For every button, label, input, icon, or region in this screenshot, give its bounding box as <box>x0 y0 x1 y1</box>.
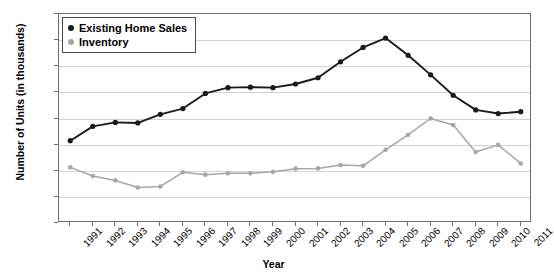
x-axis-tick-mark <box>137 222 138 226</box>
x-axis-tick-mark <box>385 222 386 226</box>
legend-label: Inventory <box>79 37 129 48</box>
series-line <box>70 119 520 188</box>
x-axis-tick-mark <box>317 222 318 226</box>
legend-item-existing-home-sales: Existing Home Sales <box>68 21 187 35</box>
x-axis-tick-mark <box>340 222 341 226</box>
data-point-marker <box>225 85 230 90</box>
data-point-marker <box>203 91 208 96</box>
x-axis-tick-label: 1996 <box>194 226 217 249</box>
x-axis-tick-label: 1992 <box>104 226 127 249</box>
data-point-marker <box>113 120 118 125</box>
data-point-marker <box>428 116 433 121</box>
x-axis-tick-label: 2000 <box>284 226 307 249</box>
data-point-marker <box>293 81 298 86</box>
data-point-marker <box>136 185 141 190</box>
data-point-marker <box>406 132 411 137</box>
chart-legend: Existing Home Sales Inventory <box>62 17 196 53</box>
data-point-marker <box>271 170 276 175</box>
legend-marker-icon <box>68 39 74 45</box>
data-point-marker <box>428 72 433 77</box>
x-axis-tick-label: 2003 <box>352 226 375 249</box>
x-axis-tick-label: 2010 <box>510 226 533 249</box>
data-point-marker <box>451 123 456 128</box>
x-axis-tick-mark <box>114 222 115 226</box>
x-axis-tick-mark <box>159 222 160 226</box>
data-point-marker <box>406 53 411 58</box>
x-axis-title: Year <box>0 258 547 270</box>
x-axis-tick-mark <box>249 222 250 226</box>
data-point-marker <box>338 163 343 168</box>
data-point-marker <box>518 161 523 166</box>
x-axis-tick-mark <box>497 222 498 226</box>
x-axis-tick-label: 1998 <box>239 226 262 249</box>
x-axis-tick-label: 2001 <box>307 226 330 249</box>
x-axis-tick-label: 2011 <box>532 226 554 248</box>
data-point-marker <box>315 75 320 80</box>
x-axis-tick-mark <box>69 222 70 226</box>
x-axis-tick-mark <box>407 222 408 226</box>
x-axis-tick-mark <box>272 222 273 226</box>
data-point-marker <box>338 59 343 64</box>
x-axis-tick-label: 1999 <box>262 226 285 249</box>
data-point-marker <box>181 170 186 175</box>
x-axis-tick-label: 2009 <box>487 226 510 249</box>
data-point-marker <box>518 109 523 114</box>
legend-label: Existing Home Sales <box>79 23 187 34</box>
x-axis-tick-label: 1995 <box>172 226 195 249</box>
x-axis-tick-label: 1991 <box>82 226 105 249</box>
data-point-marker <box>360 45 365 50</box>
data-point-marker <box>158 184 163 189</box>
data-point-marker <box>68 165 73 170</box>
x-axis-tick-mark <box>204 222 205 226</box>
data-point-marker <box>203 172 208 177</box>
x-axis-tick-label: 1997 <box>217 226 240 249</box>
data-point-marker <box>180 106 185 111</box>
data-point-marker <box>113 178 118 183</box>
data-point-marker <box>473 150 478 155</box>
x-axis-tick-label: 1993 <box>127 226 150 249</box>
y-axis-tick-mark <box>54 222 58 223</box>
data-point-marker <box>473 107 478 112</box>
x-axis-tick-mark <box>430 222 431 226</box>
x-axis-tick-label: 2006 <box>420 226 443 249</box>
x-axis-tick-label: 2008 <box>465 226 488 249</box>
x-axis-tick-label: 2004 <box>375 226 398 249</box>
legend-item-inventory: Inventory <box>68 35 187 49</box>
x-axis-tick-mark <box>475 222 476 226</box>
data-point-marker <box>248 85 253 90</box>
data-point-marker <box>248 171 253 176</box>
data-point-marker <box>293 166 298 171</box>
data-point-marker <box>226 171 231 176</box>
x-axis-tick-mark <box>520 222 521 226</box>
data-point-marker <box>383 148 388 153</box>
x-axis-tick-mark <box>92 222 93 226</box>
x-axis-tick-mark <box>227 222 228 226</box>
data-point-marker <box>451 93 456 98</box>
data-point-marker <box>90 174 95 179</box>
x-axis-tick-label: 2007 <box>442 226 465 249</box>
data-point-marker <box>496 111 501 116</box>
data-point-marker <box>361 163 366 168</box>
data-point-marker <box>316 166 321 171</box>
x-axis-tick-label: 2005 <box>397 226 420 249</box>
x-axis-tick-mark <box>295 222 296 226</box>
data-point-marker <box>383 35 388 40</box>
x-axis-tick-mark <box>362 222 363 226</box>
legend-marker-icon <box>68 25 74 31</box>
data-point-marker <box>135 120 140 125</box>
x-axis-tick-mark <box>452 222 453 226</box>
data-point-marker <box>90 124 95 129</box>
data-point-marker <box>270 85 275 90</box>
data-point-marker <box>158 112 163 117</box>
x-axis-tick-label: 2002 <box>330 226 353 249</box>
x-axis-tick-mark <box>182 222 183 226</box>
data-point-marker <box>68 138 73 143</box>
y-axis-title: Number of Units (in thousands) <box>14 2 26 202</box>
data-point-marker <box>496 143 501 148</box>
x-axis-tick-label: 1994 <box>149 226 172 249</box>
